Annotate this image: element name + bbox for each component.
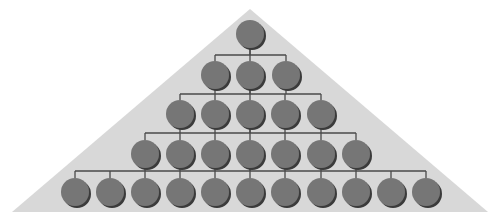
node-level-4-3 xyxy=(201,140,229,168)
node-level-5-10 xyxy=(377,178,405,206)
node-level-5-5 xyxy=(201,178,229,206)
node-level-3-2 xyxy=(201,100,229,128)
node-level-5-1 xyxy=(61,178,89,206)
node-level-1-1 xyxy=(236,20,264,48)
node-level-2-2 xyxy=(236,61,264,89)
node-level-4-5 xyxy=(271,140,299,168)
node-level-4-6 xyxy=(307,140,335,168)
node-level-5-6 xyxy=(236,178,264,206)
node-level-2-3 xyxy=(272,61,300,89)
hierarchy-pyramid-diagram xyxy=(0,0,490,222)
node-level-5-11 xyxy=(412,178,440,206)
node-level-3-5 xyxy=(307,100,335,128)
node-level-5-2 xyxy=(96,178,124,206)
node-level-5-7 xyxy=(271,178,299,206)
node-level-4-7 xyxy=(342,140,370,168)
node-level-5-4 xyxy=(166,178,194,206)
node-level-2-1 xyxy=(201,61,229,89)
node-level-3-3 xyxy=(236,100,264,128)
node-level-3-1 xyxy=(166,100,194,128)
node-level-4-2 xyxy=(166,140,194,168)
node-level-5-3 xyxy=(131,178,159,206)
node-level-4-1 xyxy=(131,140,159,168)
node-level-4-4 xyxy=(236,140,264,168)
node-level-5-9 xyxy=(342,178,370,206)
node-level-5-8 xyxy=(307,178,335,206)
node-level-3-4 xyxy=(271,100,299,128)
